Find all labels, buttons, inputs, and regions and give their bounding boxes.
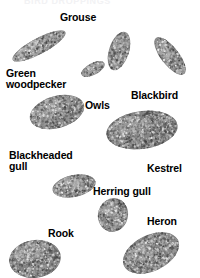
blackbird-dropping bbox=[138, 23, 200, 89]
bird-droppings-identification-chart: BIRD DROPPINGS GrouseGreen woodpeckerOwl… bbox=[0, 0, 200, 278]
label-owls: Owls bbox=[85, 100, 110, 111]
label-blackbird: Blackbird bbox=[131, 90, 178, 101]
label-rook: Rook bbox=[48, 228, 74, 239]
herring-gull-dropping bbox=[92, 192, 134, 237]
label-green-woodpecker: Green woodpecker bbox=[6, 68, 66, 89]
blackheaded-gull-dropping bbox=[22, 84, 93, 140]
label-grouse: Grouse bbox=[60, 12, 96, 23]
cut-off-page-title: BIRD DROPPINGS bbox=[24, 0, 111, 6]
rook-dropping bbox=[3, 234, 66, 278]
label-herring-gull: Herring gull bbox=[93, 186, 151, 197]
label-blackheaded-gull: Blackheaded gull bbox=[9, 150, 73, 171]
label-kestrel: Kestrel bbox=[147, 163, 182, 174]
owls-dropping-large bbox=[101, 103, 182, 157]
label-heron: Heron bbox=[147, 216, 177, 227]
